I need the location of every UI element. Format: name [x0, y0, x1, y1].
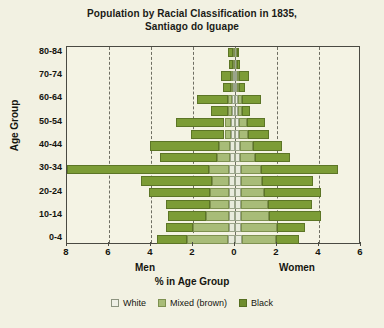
legend-label: Mixed (brown)	[170, 298, 227, 308]
bar-segment-women-black	[269, 211, 322, 220]
chart-title: Population by Racial Classification in 1…	[0, 8, 384, 33]
y-tick-label: 0-4	[16, 232, 62, 242]
bar-segment-men-mixed	[217, 153, 230, 162]
bar-row	[67, 165, 359, 174]
y-tick-label: 70-74	[16, 69, 62, 79]
bar-row	[67, 176, 359, 185]
x-tick-mark	[318, 242, 319, 246]
bar-row	[67, 106, 359, 115]
bar-segment-women-black	[262, 176, 312, 185]
bar-segment-men-black	[166, 200, 210, 209]
bar-segment-women-mixed	[239, 130, 247, 139]
bar-segment-women-black	[237, 60, 240, 69]
x-tick-mark	[276, 242, 277, 246]
x-tick-label: 8	[63, 246, 68, 257]
bar-segment-men-black	[168, 211, 206, 220]
bar-row	[67, 48, 359, 57]
y-tick-label: 50-54	[16, 116, 62, 126]
bar-segment-men-mixed	[209, 165, 229, 174]
chart-title-line2: Santiago do Iguape	[0, 21, 384, 34]
x-tick-label: 0	[231, 246, 236, 257]
bar-row	[67, 83, 359, 92]
bar-segment-women-black	[268, 200, 312, 209]
bar-segment-men-black	[157, 235, 186, 244]
bar-segment-men-mixed	[231, 71, 233, 80]
y-tick-label: 60-64	[16, 92, 62, 102]
bar-segment-women-black	[276, 235, 299, 244]
x-tick-mark	[150, 242, 151, 246]
bar-segment-men-mixed	[225, 118, 231, 127]
bar-segment-men-black	[149, 188, 210, 197]
bar-segment-women-black	[255, 153, 290, 162]
chart-title-line1: Population by Racial Classification in 1…	[87, 8, 297, 19]
bar-segment-men-black	[191, 130, 225, 139]
bar-segment-women-black	[237, 48, 239, 57]
bar-row	[67, 130, 359, 139]
bar-segment-women-black	[248, 130, 269, 139]
bar-segment-women-mixed	[239, 118, 246, 127]
bar-segment-men-black	[197, 95, 227, 104]
bar-segment-women-white	[235, 235, 242, 244]
x-tick-label: 2	[273, 246, 278, 257]
x-tick-mark	[234, 242, 235, 246]
bar-row	[67, 223, 359, 232]
bar-segment-women-mixed	[241, 200, 267, 209]
bar-segment-women-mixed	[241, 211, 268, 220]
legend-swatch-black-icon	[239, 299, 247, 307]
bar-segment-women-black	[277, 223, 305, 232]
bar-segment-men-black	[166, 223, 193, 232]
bar-segment-men-mixed	[210, 188, 229, 197]
bar-segment-men-black	[141, 176, 212, 185]
bar-segment-men-mixed	[206, 211, 229, 220]
bar-segment-women-black	[239, 83, 245, 92]
x-tick-mark	[108, 242, 109, 246]
x-tick-label: 2	[189, 246, 194, 257]
x-tick-label: 6	[357, 246, 362, 257]
bar-segment-men-mixed	[228, 106, 232, 115]
bar-row	[67, 235, 359, 244]
bar-segment-women-mixed	[241, 223, 277, 232]
bar-segment-men-black	[160, 153, 217, 162]
legend-label: White	[123, 298, 146, 308]
bar-segment-women-black	[247, 118, 266, 127]
population-pyramid-chart: Population by Racial Classification in 1…	[0, 0, 384, 328]
chart-legend: WhiteMixed (brown)Black	[0, 298, 384, 308]
bar-segment-men-black	[67, 165, 209, 174]
bar-row	[67, 71, 359, 80]
y-tick-label: 20-24	[16, 186, 62, 196]
legend-swatch-white-icon	[111, 299, 119, 307]
bar-segment-men-mixed	[228, 95, 232, 104]
bar-segment-men-black	[176, 118, 224, 127]
bar-segment-women-black	[261, 165, 338, 174]
bar-row	[67, 200, 359, 209]
y-tick-label: 40-44	[16, 139, 62, 149]
bar-segment-men-black	[229, 60, 233, 69]
plot-inner	[67, 47, 359, 243]
bar-segment-women-mixed	[241, 176, 262, 185]
bar-segment-men-black	[150, 141, 219, 150]
bar-segment-women-mixed	[240, 141, 253, 150]
bar-segment-women-mixed	[241, 188, 264, 197]
bar-segment-men-mixed	[210, 200, 229, 209]
x-axis-title: % in Age Group	[0, 276, 384, 287]
x-tick-mark	[66, 242, 67, 246]
women-group-label: Women	[262, 262, 332, 273]
x-tick-label: 4	[147, 246, 152, 257]
bar-segment-women-black	[242, 95, 261, 104]
bar-segment-men-black	[211, 106, 228, 115]
x-tick-mark	[360, 242, 361, 246]
bar-row	[67, 211, 359, 220]
y-tick-label: 10-14	[16, 209, 62, 219]
bar-segment-men-mixed	[193, 223, 229, 232]
bar-row	[67, 141, 359, 150]
bar-segment-men-mixed	[231, 83, 233, 92]
bar-segment-men-mixed	[212, 176, 229, 185]
bar-segment-women-mixed	[241, 165, 261, 174]
legend-swatch-mixed-icon	[158, 299, 166, 307]
bar-row	[67, 188, 359, 197]
y-axis-ticks: 0-410-1420-2430-3440-4450-5460-6470-7480…	[14, 46, 62, 244]
bar-segment-women-mixed	[242, 235, 276, 244]
bar-segment-men-black	[221, 71, 230, 80]
legend-label: Black	[251, 298, 273, 308]
x-tick-mark	[192, 242, 193, 246]
